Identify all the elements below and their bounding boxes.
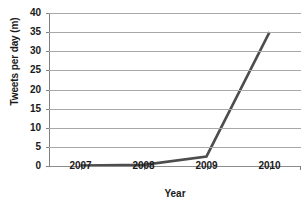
gridline-y-20	[49, 90, 301, 91]
x-tick-label-2007: 2007	[51, 160, 111, 171]
gridline-y-15	[49, 109, 301, 110]
y-tick-mark-40	[46, 13, 49, 14]
gridline-y-30	[49, 51, 301, 52]
gridline-y-25	[49, 70, 301, 71]
y-tick-label-40: 40	[1, 8, 41, 18]
y-tick-mark-35	[46, 32, 49, 33]
y-tick-label-30: 30	[1, 46, 41, 56]
y-tick-label-15: 15	[1, 104, 41, 114]
y-tick-mark-5	[46, 147, 49, 148]
y-tick-mark-25	[46, 70, 49, 71]
y-tick-label-10: 10	[1, 123, 41, 133]
line-chart: Tweets per day (m) Year 4035302520151050…	[0, 0, 307, 208]
y-tick-mark-15	[46, 109, 49, 110]
x-axis-end-tick	[300, 166, 301, 170]
y-tick-mark-10	[46, 128, 49, 129]
y-tick-mark-20	[46, 90, 49, 91]
y-tick-label-35: 35	[1, 27, 41, 37]
gridline-y-40	[49, 13, 301, 14]
gridline-y-35	[49, 32, 301, 33]
x-tick-label-2010: 2010	[240, 160, 300, 171]
gridline-y-10	[49, 128, 301, 129]
plot-area	[49, 13, 301, 166]
y-tick-label-25: 25	[1, 65, 41, 75]
y-tick-label-20: 20	[1, 85, 41, 95]
y-tick-mark-0	[46, 166, 49, 167]
gridline-y-5	[49, 147, 301, 148]
x-tick-label-2009: 2009	[177, 160, 237, 171]
y-tick-label-0: 0	[1, 161, 41, 171]
x-axis-title: Year	[49, 188, 301, 199]
series-line-tweets-per-day	[81, 32, 270, 165]
y-tick-mark-30	[46, 51, 49, 52]
y-tick-label-5: 5	[1, 142, 41, 152]
x-tick-label-2008: 2008	[114, 160, 174, 171]
